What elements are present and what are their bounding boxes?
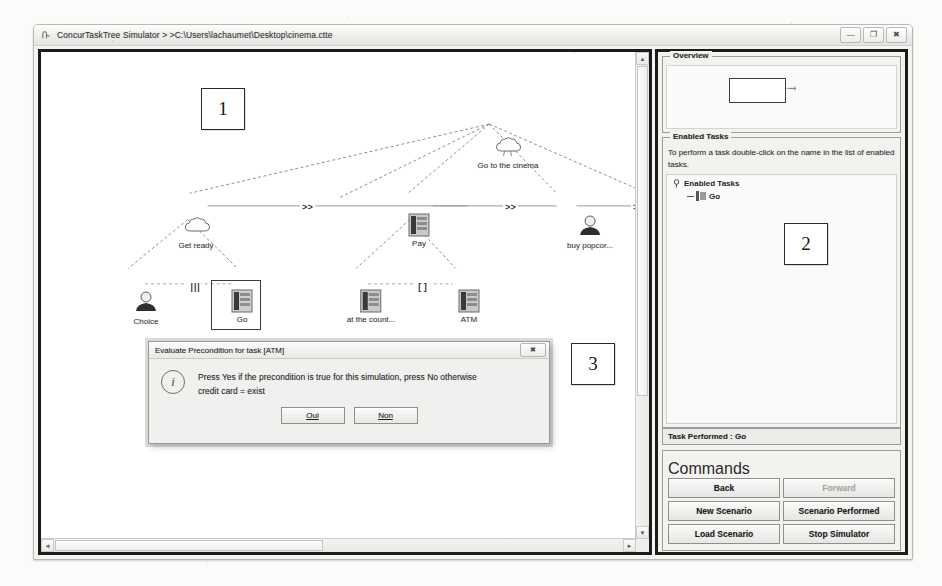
operator-choice: [] <box>415 283 430 293</box>
scroll-thumb-horizontal[interactable] <box>55 540 323 551</box>
tree-node-label: Pay <box>404 239 434 248</box>
scrollbar-corner <box>636 539 649 552</box>
operator-enabling-2: >> <box>503 203 518 213</box>
application-task-icon <box>227 288 257 316</box>
dialog-title: Evaluate Precondition for task [ATM] <box>155 346 284 355</box>
annotation-label: 2 <box>801 233 811 255</box>
scroll-up-arrow[interactable]: ▲ <box>636 52 649 65</box>
window-body: Go to the cinema Get ready <box>34 45 912 559</box>
commands-group: Commands Back Forward New Scenario Scena… <box>662 450 901 551</box>
abstract-task-icon <box>181 214 211 242</box>
scroll-down-arrow[interactable]: ▼ <box>636 526 649 539</box>
dialog-message-line1: Press Yes if the precondition is true fo… <box>198 370 477 384</box>
forward-button: Forward <box>783 478 895 498</box>
tree-node-root-label: Go to the cinema <box>478 161 539 170</box>
tree-item-label: Go <box>709 192 720 201</box>
window-titlebar: ConcurTaskTree Simulator > >C:\Users\lac… <box>34 25 912 46</box>
application-task-icon <box>454 288 484 316</box>
canvas-vertical-scrollbar[interactable]: ▲ ▼ <box>635 52 649 539</box>
annotation-box-1: 1 <box>201 88 245 130</box>
user-task-icon <box>575 214 605 242</box>
enabled-tasks-help-text: To perform a task double-click on the na… <box>668 147 895 170</box>
enabled-tasks-tree[interactable]: Enabled Tasks Go 2 <box>666 174 897 424</box>
tree-node-label: ATM <box>454 315 484 324</box>
tree-node-choice[interactable]: Choice <box>131 290 161 326</box>
dialog-body: i Press Yes if the precondition is true … <box>149 359 549 398</box>
close-button[interactable]: ✖ <box>886 27 907 43</box>
simulator-panel: Overview <box>655 49 908 555</box>
scroll-track-horizontal[interactable] <box>54 539 623 552</box>
tree-node-label: at the count... <box>347 315 395 324</box>
tree-item-go[interactable]: Go <box>667 188 896 201</box>
dialog-close-icon[interactable]: ✖ <box>520 343 546 357</box>
enabled-tasks-group: Enabled Tasks To perform a task double-c… <box>662 137 901 428</box>
overview-viewport-rect[interactable] <box>729 78 786 103</box>
overview-group-title: Overview <box>670 51 712 60</box>
operator-enabling-1: >> <box>300 203 315 213</box>
application-window: ConcurTaskTree Simulator > >C:\Users\lac… <box>33 24 913 560</box>
tree-node-buy-popcorn[interactable]: buy popcor... <box>567 214 613 250</box>
tree-node-label: Get ready <box>178 241 213 250</box>
task-performed-status: Task Performed : Go <box>662 428 901 445</box>
application-task-icon <box>404 212 434 240</box>
annotation-box-3: 3 <box>571 343 615 385</box>
stop-simulator-button[interactable]: Stop Simulator <box>783 524 895 544</box>
yes-button[interactable]: Oui <box>281 407 345 424</box>
application-task-icon <box>356 288 386 316</box>
yes-button-label: Oui <box>306 411 318 420</box>
tree-node-pay[interactable]: Pay <box>404 212 434 248</box>
canvas-horizontal-scrollbar[interactable]: ◄ ► <box>41 538 636 552</box>
application-icon <box>41 30 52 41</box>
no-button[interactable]: Non <box>354 407 418 424</box>
task-tree-pane: Go to the cinema Get ready <box>38 49 652 555</box>
tree-item-label: Enabled Tasks <box>684 179 739 188</box>
precondition-dialog: Evaluate Precondition for task [ATM] ✖ i… <box>148 341 550 444</box>
scroll-right-arrow[interactable]: ► <box>623 539 636 552</box>
dialog-buttons: Oui Non <box>149 407 549 424</box>
overview-group: Overview <box>662 56 901 133</box>
minimize-button[interactable]: — <box>840 27 861 43</box>
tree-node-label: Choice <box>131 317 161 326</box>
no-button-label: Non <box>378 411 393 420</box>
application-task-icon <box>696 191 706 201</box>
scroll-track-vertical[interactable] <box>636 65 649 526</box>
commands-group-title: Commands <box>668 460 750 477</box>
tree-node-go[interactable]: Go <box>227 288 257 324</box>
dialog-message: Press Yes if the precondition is true fo… <box>198 370 477 398</box>
dialog-message-line2: credit card = exist <box>198 384 477 398</box>
scroll-left-arrow[interactable]: ◄ <box>41 539 54 552</box>
tree-branch-line <box>687 196 694 197</box>
tree-node-get-ready[interactable]: Get ready <box>178 214 213 250</box>
info-icon: i <box>161 370 185 394</box>
abstract-task-icon <box>493 134 523 162</box>
annotation-label: 3 <box>588 353 598 375</box>
window-title: ConcurTaskTree Simulator > >C:\Users\lac… <box>57 30 333 40</box>
tree-item-enabled-tasks-root[interactable]: Enabled Tasks <box>667 175 896 188</box>
scroll-thumb-vertical[interactable] <box>637 66 648 396</box>
user-task-icon <box>131 290 161 318</box>
annotation-box-2: 2 <box>784 223 828 265</box>
annotation-label: 1 <box>218 98 228 120</box>
tree-node-label: buy popcor... <box>567 241 613 250</box>
task-tree-canvas[interactable]: Go to the cinema Get ready <box>41 52 636 539</box>
expand-handle-icon[interactable] <box>672 179 681 188</box>
scenario-performed-button[interactable]: Scenario Performed <box>783 501 895 521</box>
enabled-tasks-group-title: Enabled Tasks <box>670 132 731 141</box>
new-scenario-button[interactable]: New Scenario <box>668 501 780 521</box>
back-button[interactable]: Back <box>668 478 780 498</box>
dialog-titlebar: Evaluate Precondition for task [ATM] ✖ <box>149 342 549 359</box>
operator-interleaving: ||| <box>187 283 201 293</box>
command-buttons: Back Forward New Scenario Scenario Perfo… <box>668 478 895 544</box>
tree-node-root[interactable]: Go to the cinema <box>478 134 539 170</box>
tree-node-atm[interactable]: ATM <box>454 288 484 324</box>
tree-node-at-the-counter[interactable]: at the count... <box>347 288 395 324</box>
load-scenario-button[interactable]: Load Scenario <box>668 524 780 544</box>
overview-thumbnail[interactable] <box>666 65 897 129</box>
maximize-button[interactable]: ❐ <box>863 27 884 43</box>
window-controls: — ❐ ✖ <box>840 27 907 43</box>
